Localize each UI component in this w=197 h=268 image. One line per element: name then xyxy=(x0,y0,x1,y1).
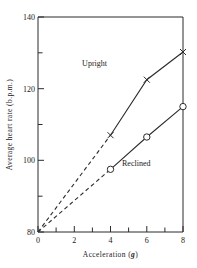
series-label-upright: Upright xyxy=(82,59,108,68)
y-tick-label-140: 140 xyxy=(23,13,35,22)
y-tick-label-120: 120 xyxy=(23,85,35,94)
y-axis-title: Average heart rate (b.p.m.) xyxy=(5,79,14,171)
y-tick-label-100: 100 xyxy=(23,156,35,165)
reclined-marker-4g xyxy=(107,166,113,172)
x-tick-label-0: 0 xyxy=(36,236,40,245)
x-tick-label-8: 8 xyxy=(181,236,185,245)
x-axis-title-text: Acceleration xyxy=(83,250,126,259)
y-tick-label-80: 80 xyxy=(27,228,35,237)
x-tick-label-4: 4 xyxy=(109,236,113,245)
x-tick-label-6: 6 xyxy=(145,236,149,245)
series-label-reclined: Reclined xyxy=(122,159,150,168)
heart-rate-vs-acceleration-chart: 80 100 120 140 0 2 4 6 8 Acceleration (g… xyxy=(0,0,197,268)
chart-figure: 80 100 120 140 0 2 4 6 8 Acceleration (g… xyxy=(0,0,197,268)
x-axis-title: Acceleration (g) xyxy=(83,250,138,259)
x-tick-label-2: 2 xyxy=(72,236,76,245)
reclined-marker-6g xyxy=(144,134,150,140)
reclined-marker-8g xyxy=(180,103,186,109)
